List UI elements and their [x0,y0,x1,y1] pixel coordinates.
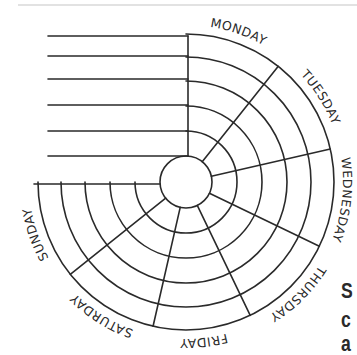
side-text-letter-3: a [341,333,351,355]
day-divider-spoke [197,205,250,315]
day-label-text: FRIDAY [180,331,230,351]
day-divider-spoke [202,66,278,161]
day-divider-spoke [211,149,330,176]
day-label-text: TUESDAY [298,66,344,127]
day-label-tuesday: TUESDAY [298,66,344,127]
day-divider-spoke [70,198,165,274]
center-circle [160,156,212,208]
side-text-letter-2: c [341,309,351,331]
day-divider-spoke [209,193,319,246]
day-label-sunday: SUNDAY [19,207,51,264]
day-label-text: THURSDAY [267,263,329,326]
day-label-text: SUNDAY [19,207,51,264]
ring-arc [135,131,237,233]
day-divider-spoke [153,207,180,326]
day-label-thursday: THURSDAY [267,263,329,326]
ring-arc [110,106,262,258]
side-text-letter-1: S [341,280,353,302]
ring-arc [85,81,287,283]
weekly-wheel-diagram: MONDAYTUESDAYWEDNESDAYTHURSDAYFRIDAYSATU… [0,0,357,355]
ring-arc [61,57,311,307]
day-label-friday: FRIDAY [180,331,230,351]
